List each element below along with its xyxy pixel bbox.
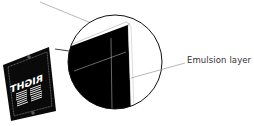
magnifier-connector [55,49,69,51]
film-sheet: RIGHT [3,47,56,121]
emulsion-layer-label: Emulsion layer [187,55,251,65]
